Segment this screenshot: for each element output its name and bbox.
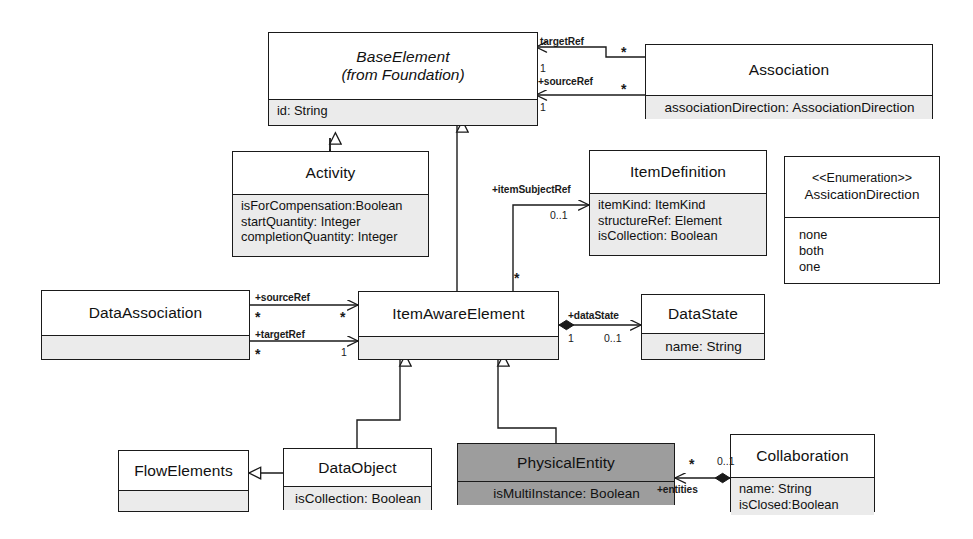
class-data-object[interactable]: DataObject isCollection: Boolean	[283, 448, 432, 510]
stereotype-label: <<Enumeration>>	[812, 170, 912, 186]
class-item-aware-element[interactable]: ItemAwareElement	[358, 291, 559, 360]
class-activity[interactable]: Activity isForCompensation:Boolean start…	[232, 151, 429, 257]
attribute-compartment: itemKind: ItemKind structureRef: Element…	[590, 194, 766, 255]
class-subtitle: (from Foundation)	[341, 66, 464, 84]
attribute: isMultiInstance: Boolean	[493, 485, 639, 502]
mult-datastate-source: 1	[568, 333, 574, 344]
attribute: isCollection: Boolean	[598, 228, 759, 244]
class-header: ItemAwareElement	[359, 292, 558, 336]
mult-entities-target: 0..1	[717, 456, 735, 467]
class-title: FlowElements	[134, 462, 233, 480]
mult-datastate-target: 0..1	[604, 333, 622, 344]
edge-label-entities: +entities	[657, 484, 698, 495]
attribute-compartment	[119, 491, 248, 511]
mult-da-targetref-source: *	[255, 350, 260, 359]
class-title: Activity	[306, 164, 356, 182]
uml-class-diagram: BaseElement (from Foundation) id: String…	[0, 0, 973, 539]
attribute-compartment: name: String isClosed:Boolean	[731, 478, 874, 515]
class-header: Association	[646, 45, 932, 95]
class-collaboration[interactable]: Collaboration name: String isClosed:Bool…	[730, 434, 875, 512]
attribute: name: String	[739, 481, 867, 497]
class-header: ItemDefinition	[590, 151, 766, 193]
class-flow-elements[interactable]: FlowElements	[118, 450, 249, 512]
class-header: DataAssociation	[42, 291, 249, 335]
edge-label-targetref: targetRef	[540, 36, 584, 47]
gen-dataobject-stem	[357, 372, 400, 450]
attribute-compartment: isForCompensation:Boolean startQuantity:…	[233, 195, 428, 256]
mult-da-targetref-target: 1	[341, 347, 347, 358]
attribute: itemKind: ItemKind	[598, 197, 759, 213]
attribute: isCollection: Boolean	[295, 490, 421, 507]
class-title: ItemAwareElement	[392, 305, 524, 323]
class-title: DataState	[668, 305, 738, 323]
attribute: isForCompensation:Boolean	[241, 198, 421, 214]
class-item-definition[interactable]: ItemDefinition itemKind: ItemKind struct…	[589, 150, 767, 256]
attribute: id: String	[277, 103, 530, 119]
attribute-compartment: id: String	[269, 100, 537, 125]
class-title: ItemDefinition	[630, 163, 726, 181]
class-association[interactable]: Association associationDirection: Associ…	[645, 44, 933, 119]
enum-literal: one	[799, 259, 932, 275]
enum-literal: none	[799, 227, 932, 243]
attribute: startQuantity: Integer	[241, 214, 421, 230]
mult-entities-source: *	[689, 460, 694, 469]
class-header: Collaboration	[731, 435, 874, 477]
attribute-compartment	[42, 336, 249, 359]
gen-physicalentity-stem	[498, 372, 556, 443]
mult-itemsubjectref-source: *	[514, 274, 519, 283]
mult-da-sourceref-target: *	[340, 313, 345, 322]
mult-itemsubjectref-target: 0..1	[550, 210, 568, 221]
attribute-compartment	[359, 337, 558, 359]
attribute: completionQuantity: Integer	[241, 229, 421, 245]
class-title: PhysicalEntity	[517, 454, 615, 472]
class-data-association[interactable]: DataAssociation	[41, 290, 250, 360]
enumeration-header: <<Enumeration>> AssicationDirection	[785, 157, 939, 217]
class-header: BaseElement (from Foundation)	[269, 33, 537, 99]
edge-targetref	[536, 47, 645, 57]
edge-label-datastate: +dataState	[568, 310, 619, 321]
mult-da-sourceref-source: *	[255, 313, 260, 322]
class-physical-entity[interactable]: PhysicalEntity isMultiInstance: Boolean	[457, 443, 675, 505]
class-title: DataAssociation	[89, 304, 203, 322]
enumeration-assication-direction[interactable]: <<Enumeration>> AssicationDirection none…	[784, 156, 940, 284]
class-title: Collaboration	[756, 447, 849, 465]
attribute-compartment: isMultiInstance: Boolean	[458, 482, 674, 505]
class-title: Association	[749, 61, 829, 79]
class-header: FlowElements	[119, 451, 248, 490]
edge-label-da-targetref: +targetRef	[255, 329, 305, 340]
attribute: name: String	[665, 338, 742, 355]
mult-sourceref-source: *	[621, 85, 626, 94]
attribute-compartment: isCollection: Boolean	[284, 487, 431, 510]
attribute: isClosed:Boolean	[739, 497, 867, 513]
class-title: DataObject	[318, 459, 397, 477]
mult-sourceref-target: 1	[540, 102, 546, 113]
class-header: DataState	[642, 295, 764, 333]
attribute: associationDirection: AssociationDirecti…	[665, 99, 915, 116]
edge-label-da-sourceref: +sourceRef	[255, 292, 310, 303]
class-header: PhysicalEntity	[458, 444, 674, 481]
enum-literal: both	[799, 243, 932, 259]
class-header: Activity	[233, 152, 428, 194]
mult-targetref-source: *	[621, 48, 626, 57]
edge-label-sourceref: +sourceRef	[538, 76, 593, 87]
literal-compartment: none both one	[785, 218, 939, 283]
class-base-element[interactable]: BaseElement (from Foundation) id: String	[268, 32, 538, 126]
attribute: structureRef: Element	[598, 213, 759, 229]
class-data-state[interactable]: DataState name: String	[641, 294, 765, 360]
mult-targetref-target: 1	[540, 63, 546, 74]
attribute-compartment: name: String	[642, 334, 764, 359]
enumeration-title: AssicationDirection	[805, 186, 920, 204]
class-header: DataObject	[284, 449, 431, 486]
attribute-compartment: associationDirection: AssociationDirecti…	[646, 96, 932, 119]
class-title: BaseElement	[356, 48, 449, 66]
edge-label-itemsubjectref: +itemSubjectRef	[492, 184, 571, 195]
